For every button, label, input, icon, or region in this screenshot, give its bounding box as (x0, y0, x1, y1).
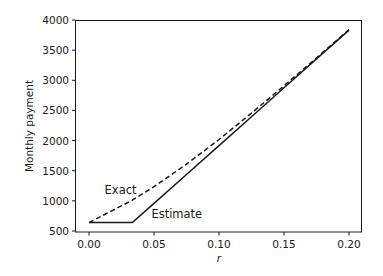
axes-frame (76, 21, 362, 233)
y-tick-label: 2000 (42, 135, 69, 147)
x-axis-label: r (217, 252, 222, 264)
x-axis: 0.000.050.100.150.20 (77, 232, 360, 250)
x-tick-label: 0.00 (77, 238, 100, 250)
x-tick-label: 0.05 (142, 238, 165, 250)
x-tick-label: 0.15 (272, 238, 295, 250)
chart: 5001000150020002500300035004000 0.000.05… (0, 0, 383, 276)
estimate-annotation: Estimate (151, 207, 202, 221)
y-tick-label: 500 (49, 225, 69, 237)
x-tick-label: 0.20 (337, 238, 360, 250)
y-axis-label: Monthly payment (23, 80, 35, 172)
y-tick-label: 2500 (42, 104, 69, 116)
y-tick-label: 4000 (42, 14, 69, 26)
x-tick-label: 0.10 (207, 238, 230, 250)
y-tick-label: 3000 (42, 74, 69, 86)
y-axis: 5001000150020002500300035004000 (42, 14, 75, 237)
y-tick-label: 1000 (42, 195, 69, 207)
y-tick-label: 1500 (42, 165, 69, 177)
exact-annotation: Exact (105, 183, 137, 197)
y-tick-label: 3500 (42, 44, 69, 56)
